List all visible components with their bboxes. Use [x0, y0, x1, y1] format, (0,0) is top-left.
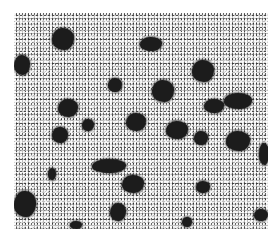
- dark-particle: [254, 209, 268, 221]
- dark-particle: [196, 181, 210, 193]
- dark-particle: [126, 113, 146, 131]
- dark-particle: [182, 217, 192, 227]
- dark-particle: [108, 78, 122, 92]
- dark-particle: [152, 80, 174, 102]
- micrograph-image: [14, 13, 268, 229]
- dark-particle: [52, 127, 68, 143]
- dark-particle: [259, 143, 268, 165]
- dark-particle: [14, 55, 30, 75]
- dark-particle: [122, 175, 144, 193]
- dark-particle: [14, 191, 36, 217]
- dark-particle: [194, 131, 208, 145]
- dark-particle: [110, 203, 126, 221]
- dark-particle: [204, 99, 224, 113]
- dark-particle: [58, 99, 78, 117]
- dark-particle: [92, 159, 126, 173]
- dark-particle: [224, 93, 252, 109]
- dark-particle: [52, 28, 74, 50]
- dark-particle: [70, 221, 82, 229]
- dark-particle: [166, 121, 188, 139]
- dark-particle: [226, 131, 250, 151]
- dark-particle: [48, 168, 56, 180]
- dark-particle: [82, 119, 94, 131]
- dark-particle: [192, 60, 214, 82]
- dark-particle: [140, 37, 162, 51]
